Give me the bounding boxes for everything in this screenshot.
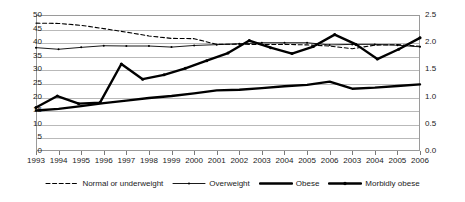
legend-marker-thick-line — [259, 179, 293, 188]
x-axis-tick-label: 2004 — [366, 156, 384, 165]
y-axis-tick-right: 1.0 — [425, 93, 451, 101]
x-axis-tick-label: 2006 — [411, 156, 429, 165]
gridline — [37, 57, 419, 58]
gridline — [37, 30, 419, 31]
y-axis-tick-left: 40 — [16, 38, 42, 46]
gridline — [37, 98, 419, 99]
x-axis-tick-label: 2005 — [298, 156, 316, 165]
legend-marker-dashed-line — [45, 179, 79, 188]
x-axis-tick-mark — [149, 151, 150, 155]
y-axis-tick-left: 35 — [16, 52, 42, 60]
legend-marker-thick-line-with-dots — [328, 179, 362, 188]
x-axis-tick-label: 2000 — [185, 156, 203, 165]
x-axis-tick-mark — [126, 151, 127, 155]
legend-item[interactable]: Obese — [259, 179, 320, 188]
plot-area — [36, 15, 420, 151]
x-axis-tick-mark — [284, 151, 285, 155]
gridline — [37, 84, 419, 85]
gridline — [37, 43, 419, 44]
x-axis-tick-label: 2003 — [343, 156, 361, 165]
x-axis-tick-label: 2005 — [389, 156, 407, 165]
legend-item-label: Obese — [296, 179, 320, 188]
y-axis-tick-right: 2.5 — [425, 11, 451, 19]
legend-marker-thin-line-with-dots — [172, 179, 206, 188]
y-axis-tick-left: 10 — [16, 120, 42, 128]
y-axis-tick-left: 15 — [16, 106, 42, 114]
x-axis-tick-mark — [330, 151, 331, 155]
y-axis-tick-left: 5 — [16, 133, 42, 141]
x-axis-tick-mark — [194, 151, 195, 155]
x-axis-tick-mark — [307, 151, 308, 155]
x-axis-tick-mark — [36, 151, 37, 155]
x-axis-tick-mark — [172, 151, 173, 155]
legend-item[interactable]: Morbidly obese — [328, 179, 419, 188]
y-axis-tick-left: 50 — [16, 11, 42, 19]
x-axis-tick-mark — [217, 151, 218, 155]
chart-legend: Normal or underweightOverweightObeseMorb… — [0, 176, 465, 190]
x-axis-tick-label: 2006 — [321, 156, 339, 165]
legend-item[interactable]: Overweight — [172, 179, 249, 188]
gridline — [37, 111, 419, 112]
gridline — [37, 70, 419, 71]
legend-item[interactable]: Normal or underweight — [45, 179, 163, 188]
x-axis-tick-mark — [59, 151, 60, 155]
y-axis-tick-left: 30 — [16, 65, 42, 73]
x-axis-tick-mark — [420, 151, 421, 155]
y-axis-tick-right: 0.0 — [425, 147, 451, 155]
x-axis-tick-label: 1997 — [117, 156, 135, 165]
legend-item-label: Morbidly obese — [365, 179, 419, 188]
x-axis-tick-label: 2003 — [253, 156, 271, 165]
y-axis-tick-left: 20 — [16, 93, 42, 101]
y-axis-tick-left: 0 — [16, 147, 42, 155]
gridline — [37, 125, 419, 126]
x-axis-tick-label: 2004 — [276, 156, 294, 165]
x-axis-tick-label: 1996 — [95, 156, 113, 165]
x-axis-tick-mark — [239, 151, 240, 155]
x-axis-tick-mark — [262, 151, 263, 155]
gridline — [37, 138, 419, 139]
x-axis-tick-label: 1994 — [50, 156, 68, 165]
x-axis-tick-label: 2001 — [208, 156, 226, 165]
x-axis-tick-label: 2002 — [230, 156, 248, 165]
x-axis-tick-mark — [375, 151, 376, 155]
x-axis-tick-mark — [352, 151, 353, 155]
x-axis-tick-label: 1999 — [163, 156, 181, 165]
x-axis-tick-mark — [81, 151, 82, 155]
x-axis-tick-mark — [397, 151, 398, 155]
line-chart: 051015202530354045500.00.51.01.52.02.519… — [0, 0, 465, 202]
legend-item-label: Normal or underweight — [82, 179, 163, 188]
y-axis-tick-right: 0.5 — [425, 120, 451, 128]
x-axis-tick-label: 1998 — [140, 156, 158, 165]
x-axis-tick-label: 1993 — [27, 156, 45, 165]
legend-item-label: Overweight — [209, 179, 249, 188]
y-axis-tick-right: 1.5 — [425, 65, 451, 73]
y-axis-tick-left: 45 — [16, 25, 42, 33]
y-axis-tick-left: 25 — [16, 79, 42, 87]
y-axis-tick-right: 2.0 — [425, 38, 451, 46]
x-axis-tick-label: 1995 — [72, 156, 90, 165]
x-axis-tick-mark — [104, 151, 105, 155]
